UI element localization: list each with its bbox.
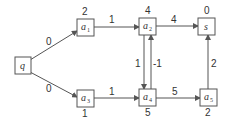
- edge-q-a1: [30, 31, 77, 60]
- node-s: s 0: [198, 5, 215, 35]
- node-a3-value: 1: [82, 108, 88, 119]
- svg-text:4: 4: [149, 97, 152, 103]
- node-a2: a 2 4: [139, 5, 156, 35]
- svg-text:a: a: [143, 91, 148, 102]
- svg-text:2: 2: [149, 26, 152, 32]
- svg-text:5: 5: [210, 97, 213, 103]
- node-a5-value: 2: [205, 107, 211, 118]
- weight-q-a3: 0: [46, 83, 52, 94]
- svg-text:a: a: [81, 92, 86, 103]
- weight-a4-a5: 5: [172, 86, 178, 97]
- svg-text:q: q: [20, 60, 25, 71]
- node-a4: a 4 5: [139, 89, 156, 118]
- node-a5: a 5 2: [200, 89, 217, 118]
- weight-a3-a4: 1: [109, 86, 115, 97]
- node-a4-value: 5: [145, 107, 151, 118]
- weight-a2-a4: 1: [135, 58, 141, 69]
- svg-text:a: a: [143, 20, 148, 31]
- svg-text:a: a: [81, 21, 86, 32]
- node-a1: a 1 2: [77, 6, 94, 36]
- weight-a4-a2: -1: [153, 58, 162, 69]
- weight-q-a1: 0: [46, 36, 52, 47]
- edge-q-a3: [30, 72, 77, 97]
- node-a2-value: 4: [145, 5, 151, 16]
- weight-a2-s: 4: [171, 14, 177, 25]
- node-s-value: 0: [204, 5, 210, 16]
- node-a3: a 3 1: [77, 90, 94, 119]
- graph-canvas: 0 0 1 4 1 5 2 1 -1 q a 1 2 a 2 4 s 0 a 3…: [0, 0, 230, 128]
- weight-a5-s: 2: [211, 58, 217, 69]
- svg-text:s: s: [204, 21, 208, 32]
- weight-a1-a2: 1: [109, 14, 115, 25]
- svg-text:a: a: [204, 91, 209, 102]
- node-a1-value: 2: [82, 6, 88, 17]
- svg-text:1: 1: [87, 27, 90, 33]
- svg-text:3: 3: [87, 98, 90, 104]
- node-q: q: [15, 57, 31, 74]
